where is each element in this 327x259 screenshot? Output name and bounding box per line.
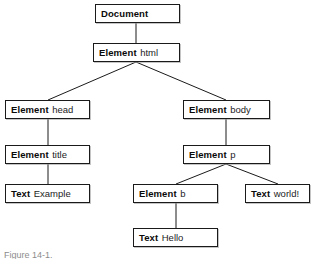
tree-node-text-example: TextExample	[5, 184, 90, 203]
tree-node-element-html: Elementhtml	[93, 43, 180, 62]
node-type-label: Element	[11, 145, 49, 164]
node-value-label: p	[230, 145, 235, 164]
node-value-label: title	[52, 145, 67, 164]
figure-caption: Figure 14-1.	[4, 250, 53, 259]
node-value-label: html	[140, 43, 158, 62]
node-value-label: body	[230, 100, 251, 119]
tree-edge	[226, 164, 278, 184]
tree-node-element-title: Elementtitle	[5, 145, 90, 164]
tree-node-element-b: Elementb	[133, 184, 218, 203]
tree-edge-layer	[0, 0, 327, 259]
node-type-label: Element	[189, 145, 227, 164]
node-type-label: Element	[99, 43, 137, 62]
tree-edge	[136, 62, 226, 100]
node-type-label: Text	[139, 228, 158, 247]
tree-node-text-hello: TextHello	[133, 228, 218, 247]
node-value-label: head	[52, 100, 73, 119]
node-type-label: Text	[251, 184, 270, 203]
node-value-label: world!	[274, 184, 299, 203]
tree-node-element-head: Elementhead	[5, 100, 90, 119]
node-type-label: Element	[11, 100, 49, 119]
tree-node-document: Document	[95, 4, 180, 23]
node-type-label: Document	[101, 4, 148, 23]
node-value-label: Example	[34, 184, 71, 203]
tree-node-element-p: Elementp	[183, 145, 270, 164]
tree-node-text-world: Textworld!	[245, 184, 310, 203]
tree-edge	[48, 62, 136, 100]
node-type-label: Element	[139, 184, 177, 203]
node-type-label: Text	[11, 184, 30, 203]
tree-node-element-body: Elementbody	[183, 100, 270, 119]
tree-edge	[176, 164, 226, 184]
dom-tree-figure: DocumentElementhtmlElementheadElementbod…	[0, 0, 327, 259]
node-value-label: b	[180, 184, 185, 203]
node-type-label: Element	[189, 100, 227, 119]
node-value-label: Hello	[162, 228, 184, 247]
